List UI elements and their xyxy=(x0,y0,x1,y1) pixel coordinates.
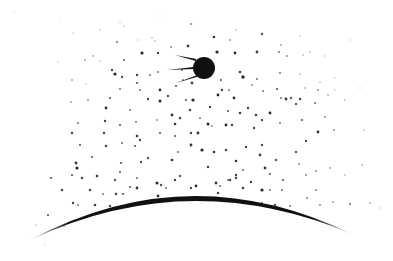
star-dot xyxy=(136,177,138,179)
star-dot xyxy=(105,145,107,147)
star-dot xyxy=(57,61,58,62)
star-dot xyxy=(228,89,230,91)
star-dot xyxy=(129,109,131,111)
star-dot xyxy=(122,193,124,195)
star-dot xyxy=(121,76,123,78)
star-dot xyxy=(361,164,363,166)
star-dot xyxy=(286,55,288,57)
star-dot xyxy=(140,51,143,54)
star-dot xyxy=(344,174,346,176)
star-dot xyxy=(35,224,37,226)
star-dot xyxy=(72,32,73,33)
star-dot xyxy=(187,45,190,48)
star-dot xyxy=(280,44,282,46)
star-dot xyxy=(369,202,371,204)
star-dot xyxy=(260,188,263,191)
star-dot xyxy=(167,95,169,97)
star-dot xyxy=(324,55,325,56)
star-dot xyxy=(261,33,263,35)
star-dot xyxy=(315,189,317,191)
star-dot xyxy=(289,205,291,207)
star-dot xyxy=(87,99,89,101)
star-dot xyxy=(195,185,198,188)
star-dot xyxy=(229,39,231,41)
star-dot xyxy=(116,41,119,44)
star-dot xyxy=(89,189,91,191)
star-dot xyxy=(207,123,210,126)
star-dot xyxy=(99,29,101,31)
star-field xyxy=(13,11,380,245)
star-dot xyxy=(85,83,87,85)
star-dot xyxy=(197,132,200,135)
star-dot xyxy=(190,23,192,25)
star-dot xyxy=(298,163,300,165)
star-dot xyxy=(220,79,222,81)
star-dot xyxy=(225,124,228,127)
star-dot xyxy=(123,25,124,26)
star-dot xyxy=(154,40,156,42)
star-dot xyxy=(363,129,365,131)
star-dot xyxy=(156,182,159,185)
star-dot xyxy=(250,181,252,183)
star-dot xyxy=(119,21,120,22)
star-dot xyxy=(245,146,247,148)
star-dot xyxy=(102,193,104,195)
star-dot xyxy=(121,142,123,144)
star-dot xyxy=(231,124,233,126)
star-dot xyxy=(77,204,79,206)
star-dot xyxy=(119,124,121,126)
star-dot xyxy=(149,74,151,76)
star-dot xyxy=(306,197,308,199)
star-dot xyxy=(129,186,131,188)
star-dot xyxy=(157,71,159,73)
star-dot xyxy=(84,59,86,61)
star-dot xyxy=(227,179,229,181)
star-dot xyxy=(324,116,326,118)
star-dot xyxy=(334,77,335,78)
star-dot xyxy=(247,107,249,109)
star-dot xyxy=(113,72,116,75)
star-dot xyxy=(242,169,244,171)
star-dot xyxy=(334,89,335,90)
star-dot xyxy=(276,88,278,90)
star-dot xyxy=(77,122,79,124)
star-dot xyxy=(261,119,263,121)
star-dot xyxy=(109,97,111,99)
star-dot xyxy=(111,69,113,71)
star-dot xyxy=(379,207,380,208)
star-dot xyxy=(171,114,174,117)
star-dot xyxy=(175,85,177,87)
star-dot xyxy=(190,132,192,134)
star-dot xyxy=(115,193,117,195)
star-dot xyxy=(61,189,63,191)
star-dot xyxy=(119,171,121,173)
star-dot xyxy=(234,52,237,55)
star-dot xyxy=(174,123,177,126)
star-dot xyxy=(71,174,73,176)
star-dot xyxy=(302,54,304,56)
star-dot xyxy=(105,107,108,110)
star-dot xyxy=(157,195,160,198)
star-dot xyxy=(229,179,231,181)
illustration-canvas xyxy=(0,0,393,261)
star-dot xyxy=(269,112,272,115)
star-dot xyxy=(269,189,271,191)
star-dot xyxy=(239,112,242,115)
star-dot xyxy=(239,71,242,74)
star-dot xyxy=(75,162,78,165)
star-dot xyxy=(275,159,277,161)
star-dot xyxy=(221,89,223,91)
star-dot xyxy=(136,187,139,190)
star-dot xyxy=(295,103,297,105)
star-dot xyxy=(92,55,94,57)
star-dot xyxy=(71,132,73,134)
star-dot xyxy=(159,100,162,103)
star-dot xyxy=(174,135,176,137)
star-dot xyxy=(123,59,125,61)
sputnik-satellite-icon xyxy=(167,55,215,83)
sputnik-horizon-illustration: Illustration of a Sputnik-style satellit… xyxy=(0,0,393,261)
star-dot xyxy=(139,139,141,141)
star-dot xyxy=(278,51,280,53)
star-dot xyxy=(136,135,139,138)
star-dot xyxy=(359,87,360,88)
